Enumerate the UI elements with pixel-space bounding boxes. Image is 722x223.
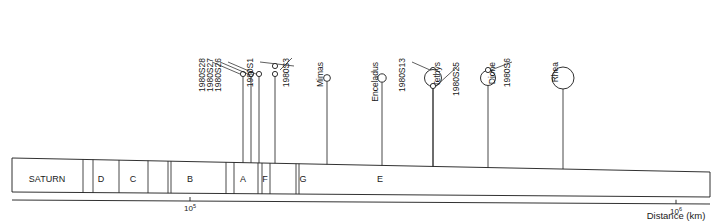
moon-marker-1980s6[interactable] bbox=[485, 67, 490, 72]
saturn-ring-satellite-diagram: SATURNDCBAFGE105106Distance (km)1980S281… bbox=[0, 0, 722, 223]
moon-label-mimas: Mimas bbox=[315, 62, 325, 87]
ring-label-D: D bbox=[98, 174, 105, 184]
moon-label-1980s3: 1980S3 bbox=[281, 58, 291, 88]
ring-label-G: G bbox=[299, 174, 306, 184]
moon-label-rhea: Rhea bbox=[550, 62, 560, 83]
moon-label-1980s6: 1980S6 bbox=[502, 58, 512, 88]
ring-band-outline bbox=[12, 158, 710, 197]
ring-label-F: F bbox=[262, 174, 268, 184]
planet-label: SATURN bbox=[29, 174, 65, 184]
axis-tick-label-0: 105 bbox=[184, 203, 196, 213]
ring-label-C: C bbox=[130, 174, 137, 184]
ring-label-A: A bbox=[240, 174, 246, 184]
moon-leader-1980s27 bbox=[220, 62, 248, 74]
moon-label-1980s1: 1980S1 bbox=[245, 58, 255, 88]
ring-label-E: E bbox=[377, 174, 383, 184]
moon-leader-1980s13 bbox=[412, 62, 430, 70]
diagram-canvas: SATURNDCBAFGE105106Distance (km)1980S281… bbox=[0, 0, 722, 223]
moon-label-enceladus: Enceladus bbox=[370, 62, 380, 102]
distance-axis bbox=[12, 200, 710, 204]
moon-label-1980s26: 1980S26 bbox=[213, 58, 223, 92]
axis-label: Distance (km) bbox=[647, 210, 706, 221]
moon-marker-1980s25[interactable] bbox=[430, 83, 435, 88]
moon-label-1980s13: 1980S13 bbox=[397, 58, 407, 92]
moon-marker-1980s3[interactable] bbox=[272, 71, 277, 76]
moon-label-1980s25: 1980S25 bbox=[451, 62, 461, 96]
moon-marker-1980s26[interactable] bbox=[256, 71, 261, 76]
moon-marker-1980s1[interactable] bbox=[272, 63, 277, 68]
moon-label-tethys: Tethys bbox=[432, 62, 442, 87]
ring-label-B: B bbox=[187, 174, 193, 184]
